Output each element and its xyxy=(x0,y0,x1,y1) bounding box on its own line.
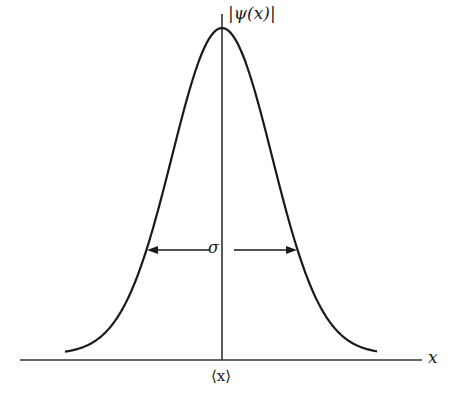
mean-label: ⟨x⟩ xyxy=(211,369,231,384)
gaussian-wavefunction-diagram xyxy=(0,0,453,396)
arrowhead-right-icon xyxy=(286,246,297,254)
arrowhead-left-icon xyxy=(147,246,158,254)
sigma-label: σ xyxy=(208,240,219,256)
y-axis-label: |ψ(x)| xyxy=(228,5,276,22)
gaussian-curve xyxy=(65,28,377,352)
x-axis-label: x xyxy=(428,349,438,366)
